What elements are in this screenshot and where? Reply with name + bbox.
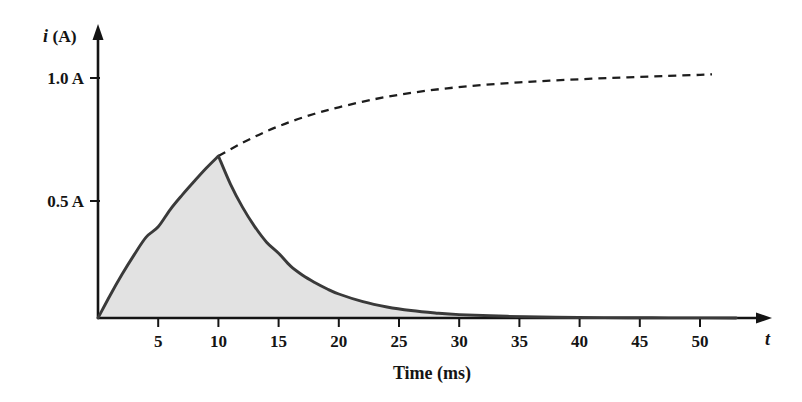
x-tick-label-40: 40 [571, 332, 588, 351]
y-axis-caption: i (A) [43, 26, 77, 46]
dashed-charging-curve [218, 74, 712, 156]
x-tick-label-15: 15 [270, 332, 287, 351]
x-tick-labels-group: 5101520253035404550 [154, 332, 709, 351]
x-tick-label-45: 45 [631, 332, 648, 351]
y-axis-caption-unit: (A) [48, 26, 77, 46]
y-tick-label-0.5: 0.5 A [47, 192, 85, 211]
x-axis-title: Time (ms) [393, 363, 471, 384]
x-tick-label-5: 5 [154, 332, 163, 351]
x-axis-arrow-icon [756, 313, 772, 324]
x-tick-label-10: 10 [210, 332, 227, 351]
x-tick-label-25: 25 [391, 332, 408, 351]
x-tick-label-50: 50 [692, 332, 709, 351]
x-axis-caption: t [765, 329, 771, 349]
current-vs-time-chart: 0.5 A 1.0 A 5101520253035404550 i (A) t … [0, 0, 802, 402]
x-tick-label-30: 30 [451, 332, 468, 351]
x-tick-label-35: 35 [511, 332, 528, 351]
figure-container: 0.5 A 1.0 A 5101520253035404550 i (A) t … [0, 0, 802, 402]
x-tick-label-20: 20 [330, 332, 347, 351]
y-axis-arrow-icon [93, 24, 104, 40]
y-tick-label-1.0: 1.0 A [47, 69, 85, 88]
